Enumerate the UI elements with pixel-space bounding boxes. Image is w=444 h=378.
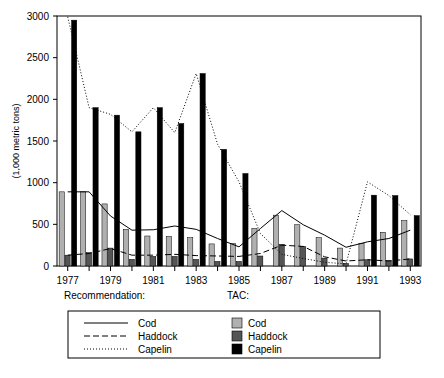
fisheries-quota-chart: 050010001500200025003000 (1,000 metric t… [0, 0, 444, 378]
bar-capelin-tac [200, 74, 205, 267]
legend-label-haddock-recommendation: Haddock [138, 331, 178, 342]
bar-capelin-tac [414, 216, 419, 266]
y-tick-label: 0 [43, 261, 49, 272]
legend-label-cod-recommendation: Cod [138, 318, 156, 329]
recommendation-header: Recommendation: [64, 290, 145, 301]
legend-label-capelin-tac: Capelin [248, 344, 282, 355]
bar-haddock-tac [172, 256, 177, 266]
bar-haddock-tac [408, 259, 413, 266]
legend-swatch-capelin-tac [232, 344, 242, 354]
bar-cod-tac [295, 225, 300, 266]
bar-capelin-tac [136, 132, 141, 266]
bar-haddock-tac [279, 244, 284, 266]
tac-header: TAC: [227, 290, 249, 301]
y-tick-label: 3000 [27, 11, 50, 22]
x-tick-label: 1991 [356, 275, 379, 286]
bar-capelin-tac [243, 174, 248, 267]
bar-capelin-tac [221, 149, 226, 266]
bar-capelin-tac [72, 20, 77, 266]
y-tick-label: 2000 [27, 94, 50, 105]
bar-capelin-tac [157, 108, 162, 266]
bar-cod-tac [59, 192, 64, 266]
legend-label-cod-tac: Cod [248, 318, 266, 329]
legend-label-haddock-tac: Haddock [248, 331, 288, 342]
bar-cod-tac [145, 236, 150, 266]
y-tick-label: 500 [32, 219, 49, 230]
bar-capelin-tac [93, 108, 98, 266]
y-tick-label: 2500 [27, 52, 50, 63]
bar-cod-tac [359, 244, 364, 267]
x-tick-label: 1993 [399, 275, 422, 286]
bar-capelin-tac [371, 195, 376, 266]
bar-haddock-tac [65, 255, 70, 266]
x-tick-label: 1989 [314, 275, 337, 286]
chart-figure: 050010001500200025003000 (1,000 metric t… [0, 0, 444, 378]
bar-haddock-tac [193, 259, 198, 266]
bar-cod-tac [123, 229, 128, 266]
legend-swatch-haddock-tac [232, 331, 242, 341]
x-tick-label: 1979 [99, 275, 122, 286]
y-tick-label: 1500 [27, 136, 50, 147]
x-tick-label: 1981 [142, 275, 165, 286]
bar-haddock-tac [300, 246, 305, 266]
y-axis-title: (1,000 metric tons) [11, 103, 21, 178]
bar-haddock-tac [258, 256, 263, 266]
bar-cod-tac [81, 192, 86, 266]
bar-capelin-tac [179, 124, 184, 267]
bar-cod-tac [166, 236, 171, 266]
bar-haddock-tac [236, 261, 241, 266]
bar-haddock-tac [86, 253, 91, 266]
bar-cod-tac [188, 238, 193, 266]
bar-capelin-tac [393, 196, 398, 266]
bar-capelin-tac [114, 115, 119, 266]
bar-haddock-tac [108, 248, 113, 266]
x-tick-label: 1977 [57, 275, 80, 286]
bar-cod-tac [102, 204, 107, 266]
bar-haddock-tac [129, 259, 134, 266]
bar-cod-tac [230, 244, 235, 267]
x-tick-label: 1987 [271, 275, 294, 286]
bar-haddock-tac [151, 256, 156, 266]
legend-swatch-cod-tac [232, 318, 242, 328]
x-tick-label: 1983 [185, 275, 208, 286]
y-tick-label: 1000 [27, 177, 50, 188]
bar-haddock-tac [365, 260, 370, 266]
x-tick-label: 1985 [228, 275, 251, 286]
bar-cod-tac [273, 215, 278, 266]
bar-haddock-tac [215, 261, 220, 266]
bar-cod-tac [209, 244, 214, 266]
legend-label-capelin-recommendation: Capelin [138, 344, 172, 355]
